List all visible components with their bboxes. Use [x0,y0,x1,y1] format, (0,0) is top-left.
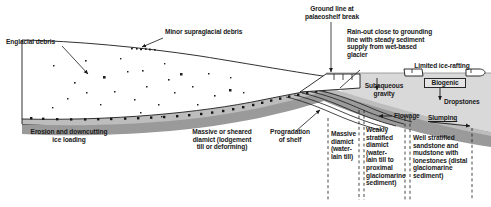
label-subaqueous-gravity: Subaqueous gravity [355,82,413,97]
leader-supraglacial-debris [142,38,163,47]
label-well-stratified-sandstone: Well stratified sandstone and mudstone w… [413,134,473,180]
label-progradation-of-shelf: Progradation of shelf [262,128,318,143]
label-dropstones: Dropstones [444,98,480,106]
label-minor-supraglacial-debris: Minor supraglacial debris [165,28,242,36]
label-biogenic: Biogenic [424,78,466,88]
label-weakly-stratified-diamict: Weakly stratified diamict (water- lain t… [366,126,406,187]
label-erosion-downcutting: Erosion and downcutting ice loading [14,128,124,143]
label-rain-out: Rain-out close to grounding line with st… [347,28,467,58]
iceberg-near [404,69,423,76]
label-slumping: Slumping [428,114,457,122]
label-limited-ice-rafting: Limited ice-rafting [393,62,491,70]
label-englacial-debris: Englacial debris [6,38,55,46]
figure-canvas: Englacial debris Minor supraglacial debr… [0,0,491,207]
label-massive-diamict: Massive diamict (water- lain till) [331,130,359,160]
iceberg-far [466,69,485,76]
label-flowage: Flowage [394,112,420,120]
label-massive-sheared-diamict: Massive or sheared diamict (lodgement ti… [182,128,262,151]
label-ground-line: Ground line at palaeoshelf break [288,5,376,20]
